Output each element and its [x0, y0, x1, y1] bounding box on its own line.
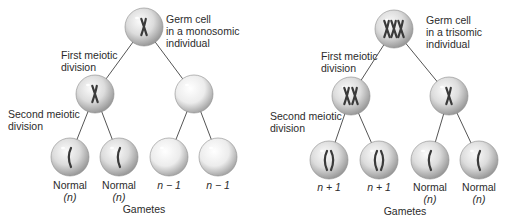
cell-highlight — [86, 84, 90, 86]
germ-cell-label-monosomic: Germ cell in a monosomic individual — [166, 13, 240, 49]
connector-line — [358, 112, 372, 145]
second-division-label-trisomic: Second meiotic division — [270, 110, 342, 134]
germ-cell-monosomic — [125, 8, 163, 46]
cell-body — [150, 138, 188, 176]
connector-line — [200, 110, 212, 141]
first-division-label-trisomic: First meiotic division — [321, 50, 378, 74]
cell-body — [100, 138, 138, 176]
gamete-cell — [411, 141, 449, 179]
gamete-label: Normal (n) — [413, 181, 447, 205]
gamete-label: n + 1 — [367, 181, 391, 193]
meiosis-i-cell — [430, 77, 468, 115]
cell-body — [360, 141, 398, 179]
cell-highlight — [135, 17, 139, 19]
gamete-cell — [51, 138, 89, 176]
cell-highlight — [470, 150, 474, 152]
gamete-label: n − 1 — [157, 179, 181, 191]
cell-highlight — [61, 147, 65, 149]
cell-highlight — [320, 150, 324, 152]
cell-highlight — [370, 150, 374, 152]
connector-line — [175, 110, 187, 141]
gamete-label: Normal (n) — [53, 179, 87, 203]
connector-line — [101, 110, 113, 141]
gamete-label: n − 1 — [206, 179, 230, 191]
cell-body — [175, 75, 213, 113]
cell-highlight — [160, 147, 164, 149]
cell-highlight — [185, 84, 189, 86]
cell-body — [310, 141, 348, 179]
gamete-cell — [360, 141, 398, 179]
connector-line — [456, 111, 472, 144]
gamete-label: Normal (n) — [462, 181, 496, 205]
cell-highlight — [110, 147, 114, 149]
gamete-label: Normal (n) — [102, 179, 136, 203]
germ-cell-label-trisomic: Germ cell in a trisomic individual — [426, 14, 482, 50]
cell-body — [199, 138, 237, 176]
cell-highlight — [209, 147, 213, 149]
gamete-label: n + 1 — [317, 181, 341, 193]
meiosis-i-cell — [175, 75, 213, 113]
gamete-cell — [460, 141, 498, 179]
gamete-cell — [199, 138, 237, 176]
first-division-label-monosomic: First meiotic division — [61, 49, 118, 73]
gametes-caption-trisomic: Gametes — [384, 205, 427, 217]
gamete-cell — [100, 138, 138, 176]
cell-highlight — [440, 86, 444, 88]
meiotic-nondisjunction-diagram: Germ cell in a monosomic individual Firs… — [0, 0, 509, 224]
connector-line — [435, 112, 444, 143]
gamete-cell — [310, 141, 348, 179]
gametes-caption-monosomic: Gametes — [123, 203, 166, 215]
second-division-label-monosomic: Second meiotic division — [8, 108, 80, 132]
cell-body — [51, 138, 89, 176]
cell-highlight — [421, 150, 425, 152]
germ-cell-trisomic — [375, 10, 413, 48]
cell-body — [460, 141, 498, 179]
gamete-cell — [150, 138, 188, 176]
cell-body — [411, 141, 449, 179]
meiosis-i-cell — [76, 75, 114, 113]
